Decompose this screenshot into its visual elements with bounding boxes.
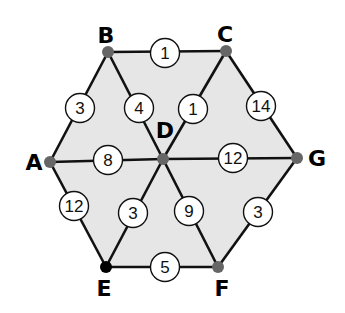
weight-label: 9 [184, 202, 193, 221]
node-E [100, 261, 112, 273]
weight-badge-DE: 3 [119, 199, 148, 228]
weight-badge-AD: 8 [94, 146, 123, 175]
node-D [157, 153, 169, 165]
node-label-C: C [217, 22, 233, 47]
node-label-F: F [214, 276, 229, 301]
node-label-E: E [96, 276, 111, 301]
weight-badge-GF: 3 [244, 198, 273, 227]
weight-label: 12 [224, 149, 243, 168]
weight-label: 3 [75, 99, 84, 118]
weight-badge-CD: 1 [179, 95, 208, 124]
weight-label: 4 [134, 99, 143, 118]
weight-label: 5 [160, 258, 169, 277]
weight-badge-CG: 14 [247, 92, 276, 121]
node-G [291, 152, 303, 164]
weight-label: 12 [65, 197, 84, 216]
weight-badge-DF: 9 [175, 197, 204, 226]
node-A [44, 156, 56, 168]
weight-label: 3 [128, 204, 137, 223]
weight-label: 3 [253, 203, 262, 222]
weight-badge-AE: 12 [60, 192, 89, 221]
node-label-G: G [308, 146, 326, 171]
weight-label: 1 [160, 44, 169, 63]
node-F [212, 261, 224, 273]
weight-label: 1 [188, 100, 197, 119]
node-label-D: D [156, 118, 174, 143]
node-label-A: A [25, 150, 42, 175]
weight-badge-BD: 4 [125, 94, 154, 123]
weight-badge-AB: 3 [66, 94, 95, 123]
node-label-B: B [98, 23, 115, 48]
weight-badge-BC: 1 [151, 39, 180, 68]
weight-label: 8 [103, 151, 112, 170]
weighted-graph-diagram: 134114812123935 ABCDGEF [0, 0, 345, 313]
weight-badge-DG: 12 [219, 144, 248, 173]
weight-label: 14 [252, 97, 271, 116]
weight-badge-EF: 5 [151, 253, 180, 282]
